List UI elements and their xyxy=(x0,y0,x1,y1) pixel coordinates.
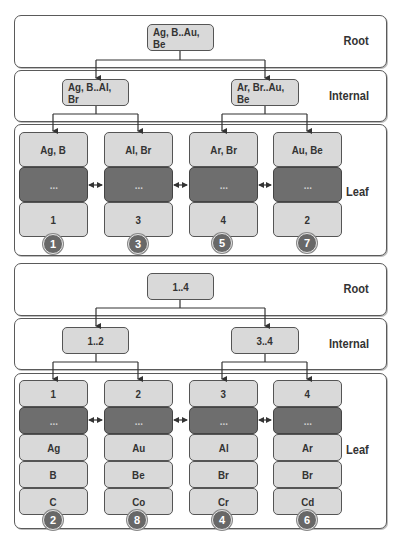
root-node-label: Ag, B..Au, Be xyxy=(153,26,208,50)
leaf-ellipsis-cell: ... xyxy=(273,167,342,202)
leaf-ellipsis-cell: ... xyxy=(273,407,342,434)
internal-node-left: 1..2 xyxy=(62,327,129,354)
leaf-value-cell: Au xyxy=(104,434,173,461)
internal-node-right: 3..4 xyxy=(231,327,299,354)
internal-node-label: Ag, B..Al, Br xyxy=(68,81,123,105)
leaf-value-cell: Ar xyxy=(273,434,342,461)
leaf-value-cell: Br xyxy=(189,461,258,488)
leaf-value-cell: Ag xyxy=(19,434,88,461)
leaf-key-cell: 2 xyxy=(104,380,173,407)
internal-node-right: Ar, Br..Au, Be xyxy=(231,79,299,106)
level-label-internal: Internal xyxy=(329,88,369,103)
step-badge: 6 xyxy=(297,510,317,530)
leaf-key-cell: Au, Be xyxy=(273,132,342,167)
leaf-value-cell: Be xyxy=(104,461,173,488)
leaf-value-cell: Br xyxy=(273,461,342,488)
leaf-key-cell: 1 xyxy=(19,380,88,407)
level-label-root: Root xyxy=(344,281,369,296)
step-badge: 2 xyxy=(43,510,63,530)
step-badge: 8 xyxy=(127,510,147,530)
step-badge: 4 xyxy=(212,510,232,530)
root-node-label: 1..4 xyxy=(172,281,188,293)
leaf-value-cell: 4 xyxy=(189,202,258,237)
leaf-value-cell: 1 xyxy=(19,202,88,237)
step-badge: 5 xyxy=(212,233,232,253)
step-badge: 1 xyxy=(43,234,63,254)
internal-node-label: Ar, Br..Au, Be xyxy=(237,81,293,105)
leaf-key-cell: Al, Br xyxy=(104,132,173,167)
leaf-key-cell: Ag, B xyxy=(19,132,88,167)
root-node: Ag, B..Au, Be xyxy=(147,24,214,51)
leaf-value-cell: 2 xyxy=(273,202,342,237)
leaf-value-cell: Al xyxy=(189,434,258,461)
leaf-ellipsis-cell: ... xyxy=(189,407,258,434)
internal-node-label: 1..2 xyxy=(87,335,103,347)
step-badge: 7 xyxy=(297,233,317,253)
leaf-value-cell: B xyxy=(19,461,88,488)
leaf-ellipsis-cell: ... xyxy=(104,407,173,434)
leaf-ellipsis-cell: ... xyxy=(19,407,88,434)
step-badge: 3 xyxy=(128,234,148,254)
internal-node-left: Ag, B..Al, Br xyxy=(62,79,129,106)
level-label-internal: Internal xyxy=(329,336,369,351)
leaf-key-cell: Ar, Br xyxy=(189,132,258,167)
internal-node-label: 3..4 xyxy=(257,335,273,347)
leaf-ellipsis-cell: ... xyxy=(104,167,173,202)
level-label-leaf: Leaf xyxy=(346,442,369,457)
leaf-key-cell: 4 xyxy=(273,380,342,407)
root-node: 1..4 xyxy=(147,273,214,300)
level-label-root: Root xyxy=(344,33,369,48)
level-label-leaf: Leaf xyxy=(346,184,369,199)
leaf-ellipsis-cell: ... xyxy=(189,167,258,202)
leaf-ellipsis-cell: ... xyxy=(19,167,88,202)
leaf-key-cell: 3 xyxy=(189,380,258,407)
leaf-value-cell: 3 xyxy=(104,202,173,237)
